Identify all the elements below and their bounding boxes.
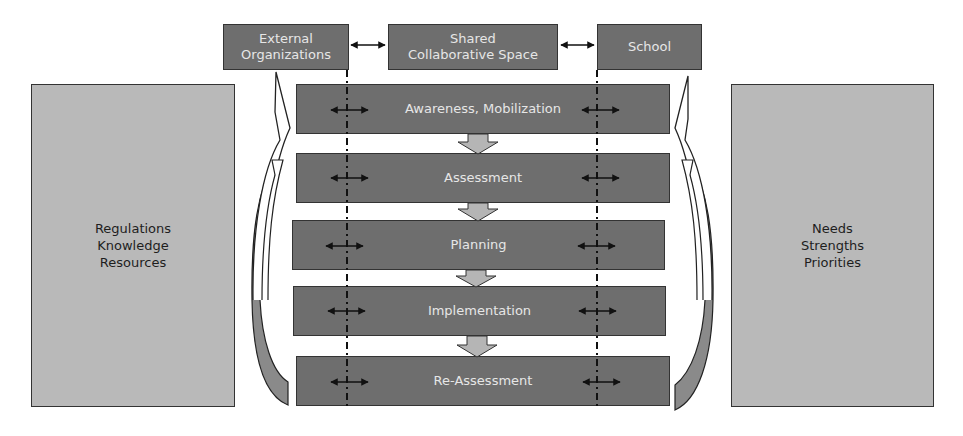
external-organizations-box: External Organizations	[223, 24, 349, 70]
process-step-label: Awareness, Mobilization	[405, 101, 561, 117]
process-step-implementation: Implementation	[293, 286, 666, 336]
process-step-reassessment: Re-Assessment	[296, 356, 670, 406]
shared-collaborative-space-box: Shared Collaborative Space	[388, 24, 558, 70]
left-feedback-arrow-icon	[252, 72, 290, 405]
left-panel-regulations: Regulations Knowledge Resources	[31, 84, 235, 407]
school-label: School	[628, 39, 671, 55]
right-feedback-arrow-icon	[675, 76, 713, 410]
process-step-label: Assessment	[444, 170, 522, 186]
right-panel-label: Needs Strengths Priorities	[801, 220, 864, 271]
left-panel-label: Regulations Knowledge Resources	[95, 220, 171, 271]
process-step-label: Planning	[451, 237, 507, 253]
process-step-assessment: Assessment	[296, 153, 670, 203]
process-step-planning: Planning	[292, 220, 665, 270]
right-panel-needs: Needs Strengths Priorities	[731, 84, 934, 407]
external-organizations-label: External Organizations	[241, 31, 331, 63]
shared-collaborative-space-label: Shared Collaborative Space	[408, 31, 538, 63]
process-step-label: Implementation	[428, 303, 531, 319]
process-step-awareness: Awareness, Mobilization	[296, 84, 670, 134]
process-step-label: Re-Assessment	[434, 373, 533, 389]
school-box: School	[597, 24, 702, 70]
